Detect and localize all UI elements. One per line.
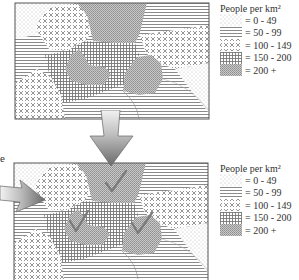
- side-text-fragment: e: [0, 152, 5, 164]
- right-arrow-icon: [0, 178, 46, 214]
- dots-pattern-swatch: [220, 174, 242, 186]
- top-legend: People per km² = 0 - 49 = 50 - 99 = 100 …: [220, 3, 291, 77]
- legend-item-200-plus: = 200 +: [220, 224, 291, 237]
- legend-title: People per km²: [220, 163, 291, 174]
- dots-pattern-swatch: [220, 14, 242, 26]
- legend-item-150-200: = 150 - 200: [220, 212, 291, 225]
- horizontal-lines-swatch: [220, 187, 242, 199]
- top-map: [14, 2, 210, 120]
- dense-dots-swatch: [220, 224, 242, 236]
- legend-item-150-200: = 150 - 200: [220, 52, 291, 65]
- legend-item-100-149: = 100 - 149: [220, 39, 291, 52]
- dense-dots-swatch: [220, 64, 242, 76]
- legend-item-0-49: = 0 - 49: [220, 14, 291, 27]
- legend-item-200-plus: = 200 +: [220, 64, 291, 77]
- horizontal-lines-swatch: [220, 27, 242, 39]
- legend-item-50-99: = 50 - 99: [220, 27, 291, 40]
- legend-title: People per km²: [220, 3, 291, 14]
- legend-item-0-49: = 0 - 49: [220, 174, 291, 187]
- legend-item-50-99: = 50 - 99: [220, 187, 291, 200]
- legend-item-100-149: = 100 - 149: [220, 199, 291, 212]
- down-arrow-icon: [88, 110, 138, 168]
- diamond-crosshatch-swatch: [220, 199, 242, 211]
- bottom-legend: People per km² = 0 - 49 = 50 - 99 = 100 …: [220, 163, 291, 237]
- grid-pattern-swatch: [220, 52, 242, 64]
- grid-pattern-swatch: [220, 212, 242, 224]
- diamond-crosshatch-swatch: [220, 39, 242, 51]
